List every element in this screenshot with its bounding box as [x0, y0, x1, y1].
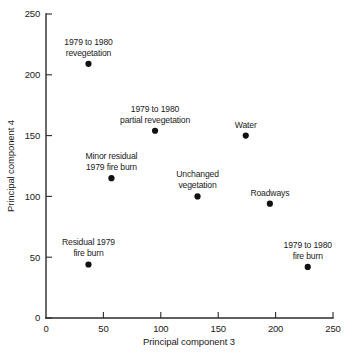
data-point-marker[interactable] [243, 133, 249, 139]
x-tick-label: 150 [211, 323, 226, 334]
figure-container: 050100150200250 050100150200250 Principa… [0, 0, 349, 354]
data-point-marker[interactable] [305, 264, 311, 270]
data-point-label: Unchangedvegetation [176, 169, 219, 190]
scatter-plot: 050100150200250 050100150200250 Principa… [0, 0, 349, 354]
data-point-marker[interactable] [85, 61, 91, 67]
data-point-label: Roadways [250, 188, 289, 198]
y-tick-label: 50 [30, 252, 40, 263]
y-tick-label: 150 [25, 130, 40, 141]
data-point-label: Water [235, 120, 257, 130]
x-tick-label: 200 [268, 323, 283, 334]
x-tick-label: 50 [98, 323, 108, 334]
data-point-marker[interactable] [85, 261, 91, 267]
y-tick-label: 0 [35, 312, 40, 323]
x-tick-label: 100 [153, 323, 168, 334]
data-point-marker[interactable] [152, 128, 158, 134]
data-point-marker[interactable] [108, 175, 114, 181]
data-point-label: Minor residual1979 fire burn [85, 151, 137, 172]
plot-background [0, 0, 349, 354]
y-tick-label: 200 [25, 69, 40, 80]
x-axis-title: Principal component 3 [143, 336, 235, 347]
data-point-marker[interactable] [267, 201, 273, 207]
data-point-label: 1979 to 1980revegetation [64, 37, 113, 58]
data-point-marker[interactable] [194, 193, 200, 199]
y-axis-title: Principal component 4 [5, 120, 16, 212]
y-tick-label: 250 [25, 8, 40, 19]
y-tick-label: 100 [25, 191, 40, 202]
x-tick-label: 250 [325, 323, 340, 334]
x-tick-label: 0 [43, 323, 48, 334]
